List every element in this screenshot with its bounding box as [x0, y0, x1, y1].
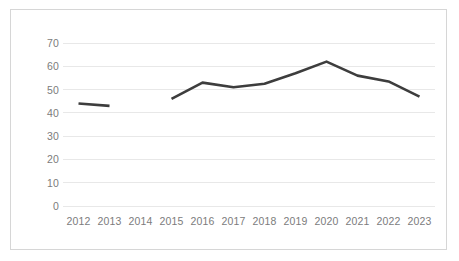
x-tick-label-2021: 2021	[345, 215, 369, 227]
chart-frame: 010203040506070 201220132014201520162017…	[10, 9, 447, 250]
x-tick-label-2017: 2017	[221, 215, 245, 227]
plot-area: 010203040506070 201220132014201520162017…	[11, 10, 448, 251]
x-tick-label-2013: 2013	[97, 215, 121, 227]
x-tick-label-2022: 2022	[376, 215, 400, 227]
x-tick-label-2012: 2012	[66, 215, 90, 227]
x-tick-label-2018: 2018	[252, 215, 276, 227]
x-axis-tick-labels: 2012201320142015201620172018201920202021…	[11, 10, 448, 251]
x-tick-label-2023: 2023	[407, 215, 431, 227]
x-tick-label-2019: 2019	[283, 215, 307, 227]
x-tick-label-2014: 2014	[128, 215, 152, 227]
x-tick-label-2015: 2015	[159, 215, 183, 227]
x-tick-label-2020: 2020	[314, 215, 338, 227]
x-tick-label-2016: 2016	[190, 215, 214, 227]
